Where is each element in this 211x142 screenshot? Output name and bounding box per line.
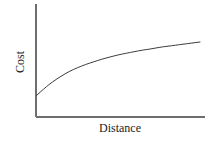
cost-curve <box>37 42 201 96</box>
y-axis-label: Cost <box>0 42 40 82</box>
cost-distance-chart: Cost Distance <box>0 0 211 142</box>
x-axis-label: Distance <box>36 122 204 134</box>
